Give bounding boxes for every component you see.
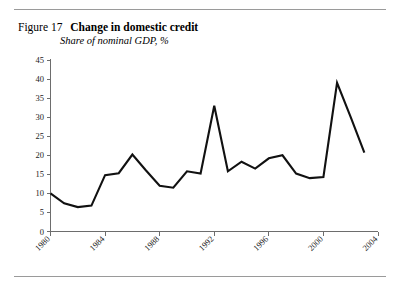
x-tick-label: 2004 — [360, 233, 380, 253]
line-chart-svg: 051015202530354045 198019841988199219962… — [0, 0, 400, 285]
x-tick-label: 1992 — [197, 234, 216, 253]
x-tick-label: 1984 — [87, 233, 107, 253]
x-tick-label: 1996 — [251, 234, 270, 253]
y-tick-label: 10 — [36, 188, 45, 198]
x-tick-label: 2000 — [306, 234, 325, 253]
bottom-rule — [14, 276, 386, 277]
y-tick-label: 30 — [36, 112, 45, 122]
y-tick-label: 40 — [36, 74, 45, 84]
x-axis: 1980198419881992199620002004 — [33, 232, 380, 253]
data-series-group — [51, 83, 365, 207]
y-tick-label: 45 — [36, 55, 45, 65]
y-tick-label: 15 — [36, 169, 45, 179]
data-line-change-in-domestic-credit — [51, 83, 365, 207]
y-tick-label: 35 — [36, 93, 45, 103]
y-axis: 051015202530354045 — [36, 55, 51, 237]
y-tick-label: 5 — [40, 207, 44, 217]
plot-area: 051015202530354045 198019841988199219962… — [0, 0, 400, 285]
y-tick-label: 25 — [36, 131, 45, 141]
x-tick-label: 1988 — [142, 234, 161, 253]
figure-container: Figure 17 Change in domestic credit Shar… — [0, 0, 400, 285]
y-tick-label: 20 — [36, 150, 45, 160]
x-tick-label: 1980 — [33, 234, 52, 253]
